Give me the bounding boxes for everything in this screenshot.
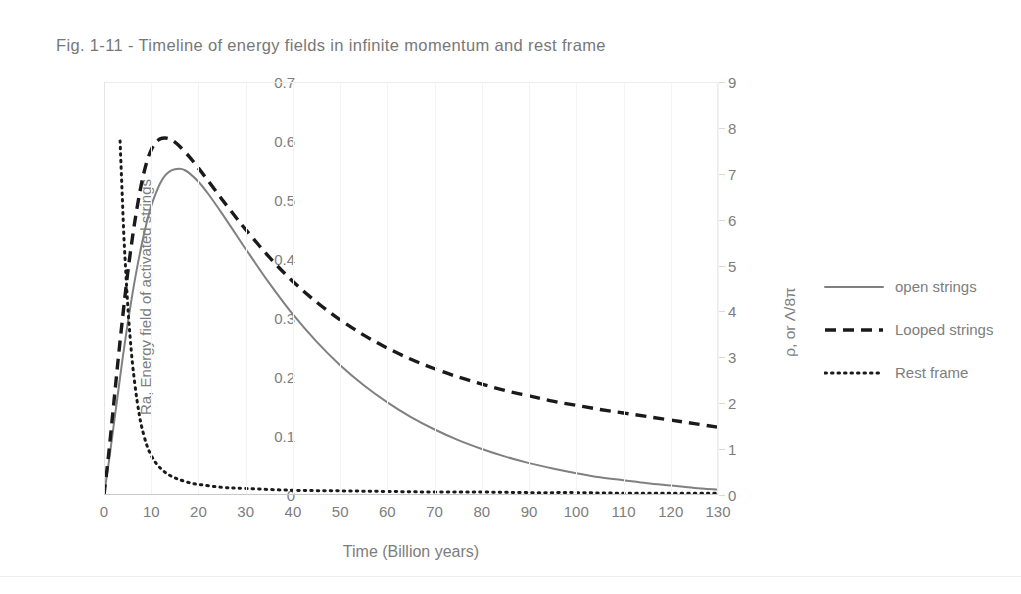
legend-swatch-dashed-icon: [824, 325, 884, 335]
plot-area: [104, 82, 718, 495]
y-axis-right-tick-4: 4: [728, 303, 736, 320]
scan-artifact-line: [0, 576, 1021, 577]
y-axis-right-tick-6: 6: [728, 211, 736, 228]
gridline-x-100: [576, 82, 577, 495]
legend-label: Rest frame: [895, 364, 968, 381]
y-axis-right-tick-2: 2: [728, 395, 736, 412]
gridline-x-120: [671, 82, 672, 495]
x-axis-tick-5: 50: [332, 503, 349, 520]
legend-swatch-dotted-icon: [824, 368, 884, 378]
series-line-looped-strings: [104, 138, 718, 495]
y-axis-right-tickmark-9: [719, 82, 725, 83]
gridline-x-60: [387, 82, 388, 495]
gridline-x-70: [435, 82, 436, 495]
x-axis-tick-3: 30: [237, 503, 254, 520]
gridline-x-40: [293, 82, 294, 495]
gridline-x-50: [340, 82, 341, 495]
x-axis-tick-9: 90: [521, 503, 538, 520]
y-axis-right-tickmark-1: [719, 449, 725, 450]
legend-item-rest-frame[interactable]: Rest frame: [824, 364, 993, 381]
x-axis-tick-8: 80: [474, 503, 491, 520]
legend-label: Looped strings: [895, 321, 993, 338]
y-axis-right-tickmark-8: [719, 128, 725, 129]
plot-top-border: [104, 82, 718, 83]
y-axis-right-tickmark-4: [719, 311, 725, 312]
x-axis-tick-4: 40: [285, 503, 302, 520]
legend-item-looped-strings[interactable]: Looped strings: [824, 321, 993, 338]
series-plot: [104, 82, 718, 495]
y-axis-right-tick-9: 9: [728, 74, 736, 91]
legend: open stringsLooped stringsRest frame: [824, 278, 993, 381]
x-axis-tick-11: 110: [612, 503, 636, 520]
y-axis-right-tick-5: 5: [728, 257, 736, 274]
x-axis-line: [104, 494, 718, 495]
figure-title: Fig. 1-11 - Timeline of energy fields in…: [56, 36, 606, 55]
x-axis-tick-7: 70: [426, 503, 443, 520]
gridline-x-30: [246, 82, 247, 495]
x-axis-tick-1: 10: [143, 503, 160, 520]
x-axis-tick-12: 120: [658, 503, 683, 520]
gridline-x-90: [529, 82, 530, 495]
gridline-x-80: [482, 82, 483, 495]
y-axis-right-tickmark-5: [719, 266, 725, 267]
series-line-open-strings: [104, 169, 718, 495]
gridline-x-20: [198, 82, 199, 495]
y-axis-right-tick-0: 0: [728, 487, 736, 504]
gridline-x-110: [624, 82, 625, 495]
y-axis-right-tickmark-7: [719, 174, 725, 175]
x-axis-tick-2: 20: [190, 503, 207, 520]
x-axis-title: Time (Billion years): [104, 543, 718, 561]
x-axis-tick-13: 130: [705, 503, 730, 520]
legend-label: open strings: [895, 278, 977, 295]
legend-item-open-strings[interactable]: open strings: [824, 278, 993, 295]
x-axis-tick-10: 100: [564, 503, 589, 520]
y-axis-right-title: ρ, or Λ/8π: [781, 287, 799, 357]
plot-left-border: [104, 82, 105, 495]
x-axis-tick-6: 60: [379, 503, 396, 520]
figure-container: Fig. 1-11 - Timeline of energy fields in…: [0, 0, 1021, 594]
y-axis-right-tick-1: 1: [728, 441, 736, 458]
gridline-x-130: [718, 82, 719, 495]
y-axis-right-tick-8: 8: [728, 119, 736, 136]
gridline-x-10: [151, 82, 152, 495]
y-axis-right-tickmark-2: [719, 403, 725, 404]
y-axis-right-tick-7: 7: [728, 165, 736, 182]
y-axis-right-tick-3: 3: [728, 349, 736, 366]
legend-swatch-solid-icon: [824, 282, 884, 292]
series-line-rest-frame: [120, 141, 718, 493]
y-axis-right-tickmark-0: [719, 495, 725, 496]
x-axis-tick-0: 0: [100, 503, 108, 520]
y-axis-right-tickmark-3: [719, 357, 725, 358]
y-axis-right-tickmark-6: [719, 220, 725, 221]
